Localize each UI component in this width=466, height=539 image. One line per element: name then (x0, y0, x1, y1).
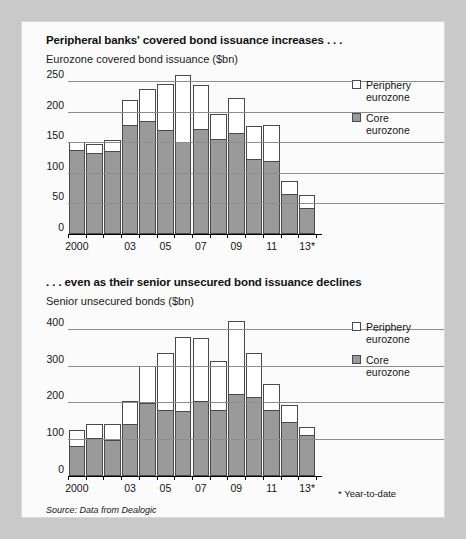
bar-segment-periphery (193, 338, 210, 401)
y-axis-tick-label: 400 (26, 316, 64, 328)
bar-segment-core (175, 142, 192, 234)
bar-12 (281, 405, 298, 476)
x-axis-tick-mark (174, 234, 175, 238)
legend-swatch-periphery-icon (352, 80, 361, 89)
x-axis-tick-mark (174, 476, 175, 480)
y-axis-tick-label: 0 (26, 463, 64, 475)
bar-segment-core (228, 394, 245, 476)
bar-07 (193, 338, 210, 476)
bar-segment-core (210, 139, 227, 234)
gridline (68, 173, 444, 174)
bar-09 (228, 321, 245, 476)
x-axis-tick-mark (245, 476, 246, 480)
y-axis-tick-label: 250 (26, 68, 64, 80)
x-axis-tick-label: 13* (282, 240, 332, 252)
bar-06 (175, 337, 192, 476)
bar-13* (299, 427, 316, 476)
y-axis-tick-label: 200 (26, 99, 64, 111)
x-axis-tick-mark (103, 476, 104, 480)
x-axis-tick-mark (263, 476, 264, 480)
x-axis-tick-mark (298, 476, 299, 480)
bar-segment-periphery (175, 337, 192, 411)
bar-segment-core (263, 161, 280, 234)
bar-segment-core (281, 194, 298, 234)
legend-swatch-periphery-icon (352, 322, 361, 331)
bar-11 (263, 384, 280, 476)
bar-segment-periphery (122, 401, 139, 425)
bar-2000 (69, 430, 86, 476)
chart-subtitle-bottom: Senior unsecured bonds ($bn) (46, 295, 194, 307)
x-axis-tick-mark (227, 476, 228, 480)
bar-08 (210, 361, 227, 476)
bar-segment-core (104, 440, 121, 476)
x-axis-tick-mark (86, 234, 87, 238)
x-axis-tick-mark (68, 476, 69, 480)
x-axis-tick-mark (316, 234, 317, 238)
legend-label-core: Core eurozone (366, 354, 411, 378)
bar-segment-periphery (86, 144, 103, 153)
y-axis-tick-label: 100 (26, 160, 64, 172)
legend-label-core: Core eurozone (366, 112, 411, 136)
x-axis-tick-mark (103, 234, 104, 238)
x-axis-tick-mark (298, 234, 299, 238)
x-axis-line (68, 234, 322, 235)
x-axis-tick-label: 2000 (52, 240, 102, 252)
bar-segment-periphery (175, 75, 192, 142)
bar-segment-periphery (86, 424, 103, 438)
source-note: Source: Data from Dealogic (46, 505, 157, 515)
bar-segment-periphery (263, 384, 280, 411)
bar-segment-core (299, 435, 316, 476)
bar-segment-periphery (228, 321, 245, 395)
x-axis-tick-mark (86, 476, 87, 480)
bar-05 (157, 84, 174, 234)
x-axis-tick-mark (316, 476, 317, 480)
legend-item-periphery-bottom: Periphery eurozone (352, 321, 411, 345)
x-axis-tick-mark (139, 476, 140, 480)
bar-segment-core (210, 410, 227, 476)
x-axis-tick-mark (192, 234, 193, 238)
legend-label-periphery: Periphery eurozone (366, 321, 411, 345)
x-axis-tick-mark (263, 234, 264, 238)
x-axis-line (68, 476, 322, 477)
bar-06 (175, 75, 192, 234)
x-axis-tick-mark (139, 234, 140, 238)
bar-05 (157, 353, 174, 476)
y-axis-tick-label: 150 (26, 129, 64, 141)
x-axis-tick-mark (157, 234, 158, 238)
y-axis-tick-label: 200 (26, 389, 64, 401)
legend-item-core-top: Core eurozone (352, 112, 411, 136)
legend-core-line1: Core (366, 112, 389, 124)
legend-item-core-bottom: Core eurozone (352, 354, 411, 378)
bar-segment-periphery (299, 195, 316, 208)
chart-title-top: Peripheral banks' covered bond issuance … (46, 34, 342, 46)
legend-periphery-line1: Periphery (366, 79, 411, 91)
bar-02 (104, 140, 121, 234)
bar-segment-core (157, 130, 174, 234)
bar-segment-core (139, 121, 156, 234)
bar-segment-core (193, 129, 210, 234)
x-axis-tick-mark (210, 476, 211, 480)
bar-10 (246, 353, 263, 476)
chart-title-bottom: . . . even as their senior unsecured bon… (46, 276, 362, 288)
x-axis-tick-mark (121, 476, 122, 480)
bar-segment-periphery (193, 85, 210, 129)
bar-segment-periphery (157, 84, 174, 130)
bar-segment-periphery (246, 353, 263, 397)
bar-02 (104, 424, 121, 476)
x-axis-tick-mark (281, 476, 282, 480)
bar-segment-core (122, 424, 139, 476)
legend-core-line2: eurozone (366, 366, 411, 378)
x-axis-tick-mark (68, 234, 69, 238)
x-axis-tick-mark (281, 234, 282, 238)
x-axis-tick-mark (157, 476, 158, 480)
legend-periphery-line2: eurozone (366, 333, 411, 345)
figure-background: Peripheral banks' covered bond issuance … (0, 0, 466, 539)
bar-01 (86, 424, 103, 476)
bar-segment-periphery (210, 114, 227, 140)
bar-segment-periphery (69, 430, 86, 445)
plot-area-top (68, 72, 316, 234)
bar-segment-core (104, 151, 121, 234)
x-axis-tick-mark (121, 234, 122, 238)
bar-segment-periphery (281, 405, 298, 422)
bar-segment-core (281, 422, 298, 476)
